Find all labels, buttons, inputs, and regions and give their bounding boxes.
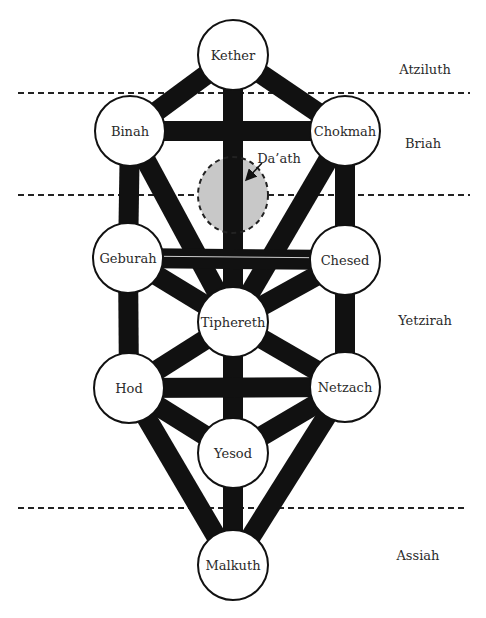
sephirah-label: Binah <box>111 124 150 139</box>
daath-label: Da’ath <box>257 151 301 166</box>
sephirah-label: Netzach <box>318 380 373 395</box>
world-label-atziluth: Atziluth <box>398 62 451 77</box>
sephirah-label: Hod <box>115 381 143 396</box>
world-labels: AtziluthBriahYetzirahAssiah <box>395 62 452 563</box>
sephirah-chesed: Chesed <box>310 225 380 295</box>
sephirah-label: Malkuth <box>205 558 261 573</box>
world-label-briah: Briah <box>405 136 442 151</box>
sephirah-geburah: Geburah <box>93 223 163 293</box>
sephirah-label: Chokmah <box>314 124 377 139</box>
sephirah-kether: Kether <box>198 20 268 90</box>
sephirah-label: Kether <box>211 48 256 63</box>
sephirah-netzach: Netzach <box>310 352 380 422</box>
sephirah-hod: Hod <box>94 353 164 423</box>
sephirah-malkuth: Malkuth <box>198 530 268 600</box>
sephirah-label: Chesed <box>321 253 370 268</box>
sephirah-binah: Binah <box>95 96 165 166</box>
tree-of-life-diagram: KetherBinahChokmahGeburahChesedTiphereth… <box>0 0 486 618</box>
sephirah-tiphereth: Tiphereth <box>198 287 268 357</box>
sephirah-label: Geburah <box>99 251 157 266</box>
world-label-assiah: Assiah <box>395 548 440 563</box>
world-label-yetzirah: Yetzirah <box>397 313 452 328</box>
sephirah-label: Tiphereth <box>201 315 266 330</box>
sephirah-yesod: Yesod <box>198 418 268 488</box>
sephirah-label: Yesod <box>213 446 252 461</box>
sephirah-chokmah: Chokmah <box>310 96 380 166</box>
